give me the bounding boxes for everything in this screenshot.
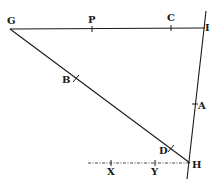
label-c: C <box>167 12 175 23</box>
label-y: Y <box>150 166 159 177</box>
label-g: G <box>7 15 16 26</box>
label-b: B <box>62 74 70 85</box>
label-x: X <box>107 166 115 177</box>
label-h: H <box>192 159 201 170</box>
label-a: A <box>197 100 206 111</box>
label-p: P <box>88 14 96 25</box>
geometry-diagram: G P C I B D A H X Y <box>0 0 219 188</box>
label-d: D <box>159 145 168 156</box>
line-gh <box>10 29 190 163</box>
label-i: I <box>205 22 210 33</box>
line-ih <box>187 11 206 179</box>
line-gi <box>10 28 205 29</box>
